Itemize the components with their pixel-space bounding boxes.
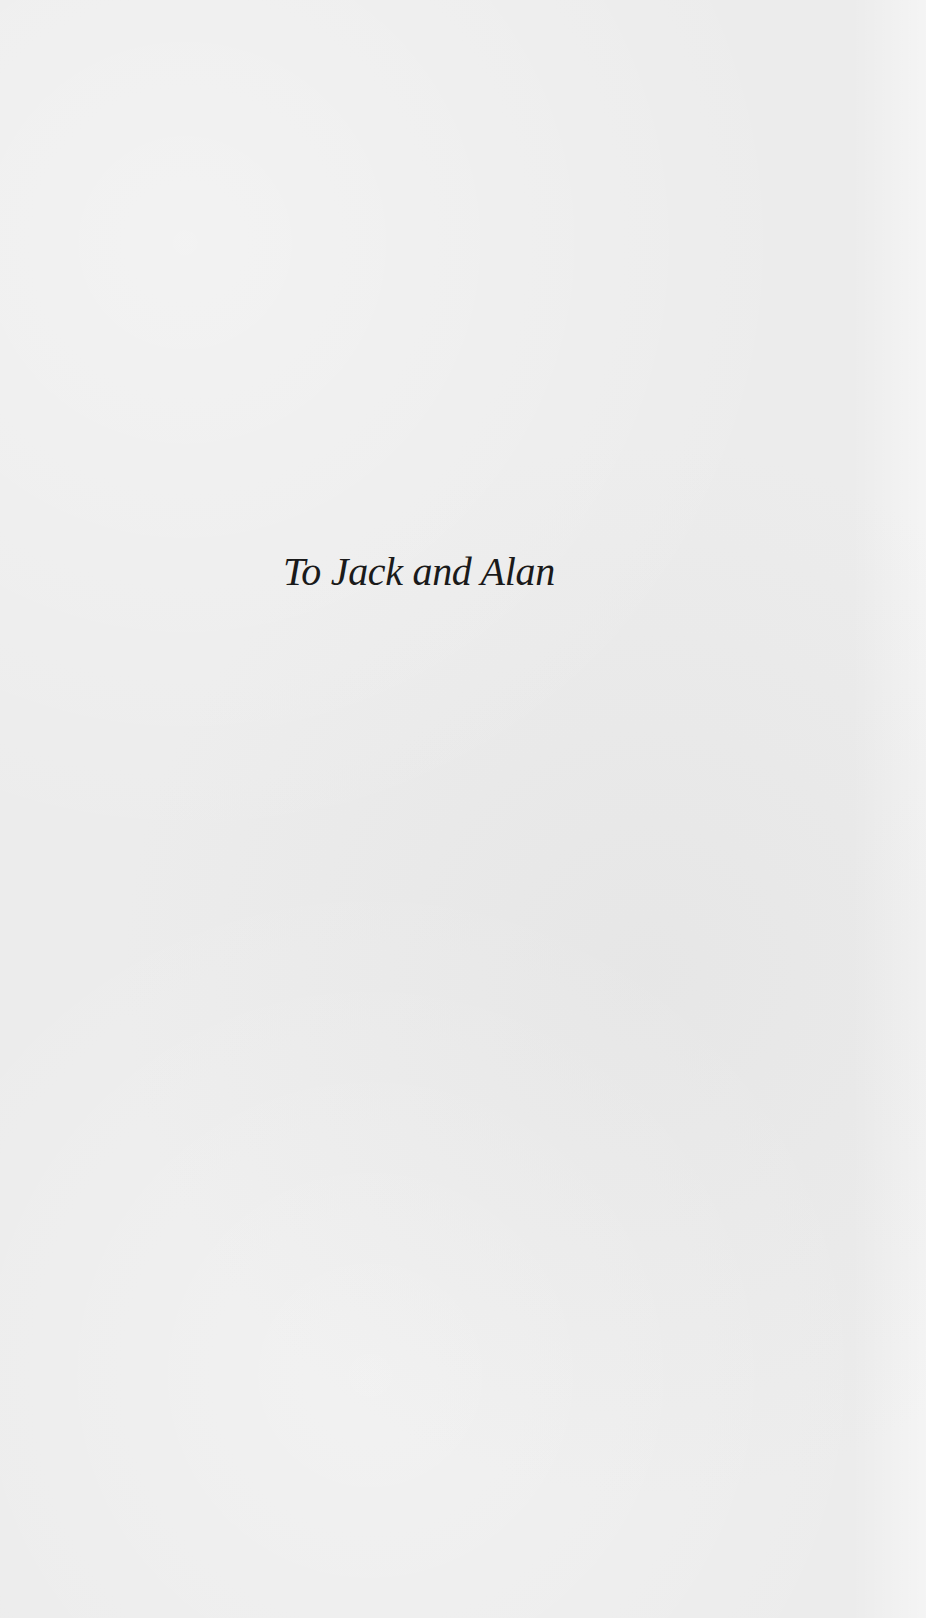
dedication-page: To Jack and Alan	[0, 0, 926, 1618]
dedication-text: To Jack and Alan	[283, 546, 555, 598]
